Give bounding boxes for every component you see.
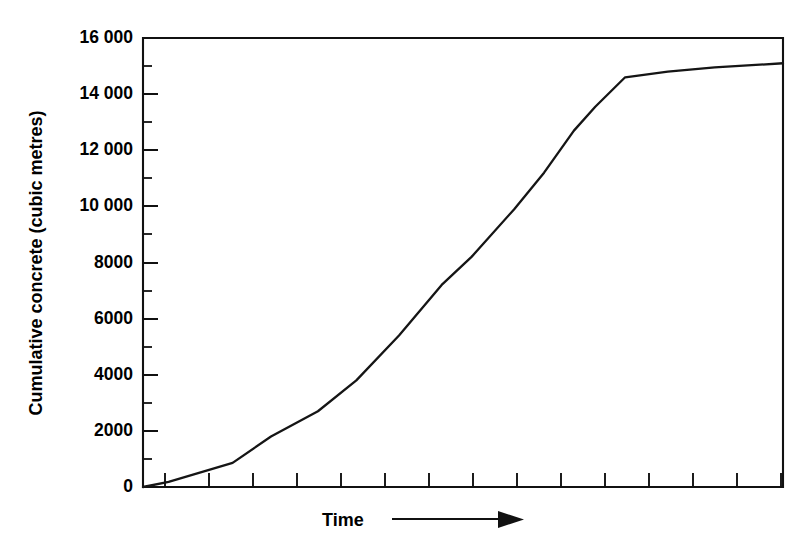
y-tick-label-16000: 16 000 bbox=[79, 27, 133, 47]
y-tick-label-0: 0 bbox=[123, 476, 133, 496]
right-arrow-icon bbox=[392, 511, 524, 528]
x-axis-ticks bbox=[165, 473, 781, 487]
y-axis-tick-labels: 16 000 14 000 12 000 10 000 8000 6000 40… bbox=[79, 27, 133, 496]
y-tick-label-12000: 12 000 bbox=[79, 139, 133, 159]
y-axis-major-ticks bbox=[143, 38, 158, 487]
y-axis-title: Cumulative concrete (cubic metres) bbox=[26, 110, 46, 415]
plot-border bbox=[143, 38, 783, 487]
y-tick-label-2000: 2000 bbox=[94, 420, 133, 440]
y-tick-label-6000: 6000 bbox=[94, 308, 133, 328]
cumulative-concrete-s-curve: 16 000 14 000 12 000 10 000 8000 6000 40… bbox=[0, 0, 809, 544]
figure-root: 16 000 14 000 12 000 10 000 8000 6000 40… bbox=[0, 0, 809, 544]
cumulative-concrete-curve bbox=[143, 63, 783, 487]
plot-frame bbox=[143, 38, 783, 487]
y-tick-label-10000: 10 000 bbox=[79, 195, 133, 215]
x-axis-title: Time bbox=[322, 510, 364, 530]
y-tick-label-4000: 4000 bbox=[94, 364, 133, 384]
y-tick-label-14000: 14 000 bbox=[79, 83, 133, 103]
y-tick-label-8000: 8000 bbox=[94, 252, 133, 272]
